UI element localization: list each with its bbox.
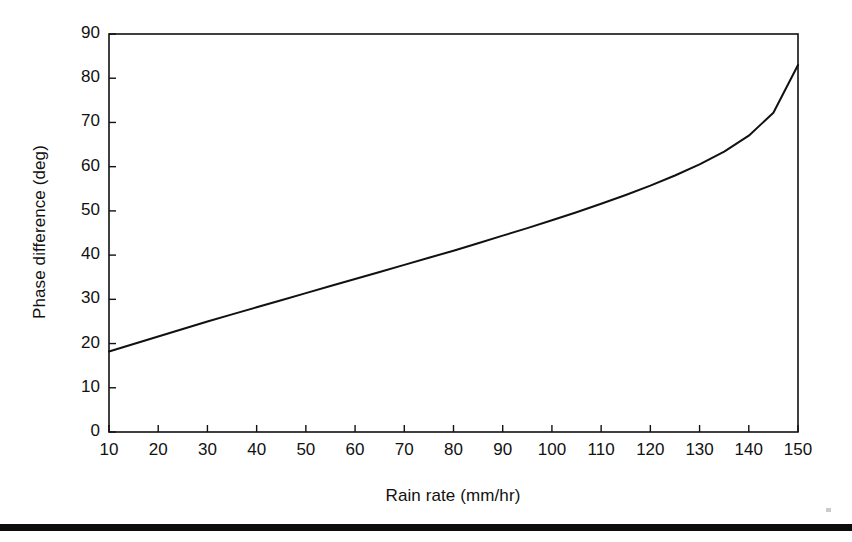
x-axis-tick-label: 50 xyxy=(281,440,331,460)
x-axis-tick-label: 10 xyxy=(84,440,134,460)
x-axis-tick-label: 30 xyxy=(182,440,232,460)
chart-figure: 0102030405060708090 10203040506070809010… xyxy=(0,0,852,500)
x-axis-tick-label: 20 xyxy=(133,440,183,460)
x-axis-tick-label: 120 xyxy=(625,440,675,460)
x-axis-tick-label: 130 xyxy=(675,440,725,460)
x-axis-tick-label-group: 102030405060708090100110120130140150 xyxy=(0,0,852,500)
x-axis-tick-label: 40 xyxy=(232,440,282,460)
x-axis-tick-label: 150 xyxy=(773,440,823,460)
x-axis-tick-label: 90 xyxy=(478,440,528,460)
x-axis-tick-label: 100 xyxy=(527,440,577,460)
x-axis-tick-label: 70 xyxy=(379,440,429,460)
page: 0102030405060708090 10203040506070809010… xyxy=(0,0,852,542)
x-axis-tick-label: 80 xyxy=(429,440,479,460)
scan-artifact-speck xyxy=(826,508,831,512)
x-axis-tick-label: 110 xyxy=(576,440,626,460)
x-axis-tick-label: 140 xyxy=(724,440,774,460)
x-axis-title: Rain rate (mm/hr) xyxy=(108,486,798,506)
y-axis-title: Phase difference (deg) xyxy=(30,82,50,382)
page-horizontal-rule xyxy=(0,524,852,531)
x-axis-tick-label: 60 xyxy=(330,440,380,460)
